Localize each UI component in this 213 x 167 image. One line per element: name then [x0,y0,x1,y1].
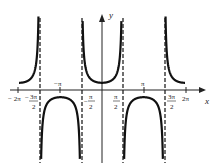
tick-label-neg-pi2-num: π [89,93,93,101]
tick-label-neg-3pi2-den: 2 [32,103,36,111]
y-axis [99,14,105,163]
x-axis-label: x [204,96,209,106]
secant-branch-1 [41,97,80,159]
y-axis-arrow-icon [99,14,105,22]
y-axis-label: y [108,10,113,20]
tick-label-3pi2-num: 3π [168,93,176,101]
tick-label-2pi: 2π [182,95,190,103]
tick-label-neg-3pi2-num: 3π [30,93,38,101]
tick-label-pi: π [141,80,145,88]
secant-graph: y x − 2π − 3π 2 −π − π 2 π 2 π 3π 2 2π [0,0,213,167]
tick-label-pi2-den: 2 [114,103,118,111]
secant-branch-3 [124,97,163,159]
x-axis-arrow-icon [199,87,206,93]
tick-label-neg-3pi2-sign: − [25,94,29,102]
tick-label-neg-pi: −π [54,80,62,88]
tick-label-neg-pi2-den: 2 [89,103,93,111]
secant-branch-4 [166,17,185,83]
tick-label-pi2-num: π [114,93,118,101]
tick-label-3pi2-den: 2 [170,103,174,111]
secant-branch-0 [19,17,38,83]
tick-label-neg-pi2-sign: − [84,98,88,106]
tick-label-neg-2pi: − 2π [8,95,21,103]
